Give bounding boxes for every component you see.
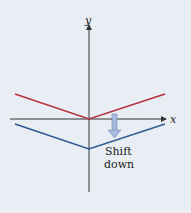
diagram: x y Shift down	[0, 0, 191, 213]
x-axis-label: x	[170, 113, 177, 126]
original-graph	[15, 94, 165, 119]
shifted-graph	[15, 124, 165, 149]
annotation-line2: down	[104, 158, 134, 171]
shift-down-arrow-icon	[108, 114, 121, 138]
annotation-line1: Shift	[105, 145, 132, 158]
y-axis-label: y	[84, 14, 92, 27]
